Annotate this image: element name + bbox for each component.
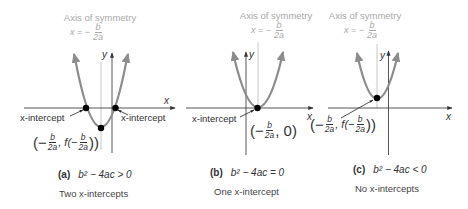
panel-c-graph xyxy=(328,44,452,155)
caption-letter: (a) xyxy=(58,169,70,180)
subcaption-c: No x-intercepts xyxy=(355,184,419,194)
equation-prefix: x = − xyxy=(70,28,90,37)
y-axis-label: y xyxy=(102,50,107,60)
axis-of-symmetry-equation: x = − b 2a xyxy=(344,21,378,40)
quadratic-discriminant-figure: Axis of symmetry x = − b 2a y x x-interc… xyxy=(0,0,468,209)
subcaption-b: One x-intercept xyxy=(214,187,279,197)
axis-of-symmetry-equation: x = − b 2a xyxy=(251,21,285,40)
axis-of-symmetry-title: Axis of symmetry xyxy=(320,11,410,21)
axis-of-symmetry-equation: x = − b 2a xyxy=(70,23,104,42)
caption-letter: (c) xyxy=(353,164,365,175)
equation-prefix: x = − xyxy=(251,26,271,35)
caption-letter: (b) xyxy=(210,167,223,178)
pointer-arrow xyxy=(70,110,83,116)
vertex-coordinate-label: (− b2a , 0) xyxy=(250,121,297,139)
y-axis-label: y xyxy=(380,51,385,61)
y-axis-label: y xyxy=(249,50,254,60)
vertex-coordinate-label: (− b2a , f(− b2a )) xyxy=(310,115,376,133)
discriminant-condition: b² − 4ac < 0 xyxy=(373,164,426,175)
axis-of-symmetry-title: Axis of symmetry xyxy=(231,11,321,21)
equation-prefix: x = − xyxy=(344,26,364,35)
x-axis-label: x xyxy=(446,112,451,122)
x-intercept-point-right xyxy=(112,105,118,111)
subcaption-a: Two x-intercepts xyxy=(59,189,128,199)
x-intercept-point-left xyxy=(83,105,89,111)
discriminant-condition: b² − 4ac > 0 xyxy=(78,169,131,180)
x-intercept-label-left: x-intercept xyxy=(20,113,64,123)
vertex-point xyxy=(98,125,104,131)
caption-a: (a)b² − 4ac > 0 xyxy=(58,170,132,180)
x-intercept-label-right: x-intercept xyxy=(121,113,165,123)
caption-c: (c)b² − 4ac < 0 xyxy=(353,165,427,175)
fraction-denominator: 2a xyxy=(92,33,104,42)
vertex-coordinate-label: (− b2a , f(− b2a )) xyxy=(33,133,99,151)
x-axis-label: x xyxy=(164,96,169,106)
x-intercept-label: x-intercept xyxy=(192,114,236,124)
caption-b: (b)b² − 4ac = 0 xyxy=(210,168,284,178)
vertex-point xyxy=(374,95,380,101)
fraction-denominator: 2a xyxy=(366,31,378,40)
pointer-arrow xyxy=(240,110,254,117)
fraction-denominator: 2a xyxy=(273,31,285,40)
vertex-x-intercept-point xyxy=(254,105,260,111)
discriminant-condition: b² − 4ac = 0 xyxy=(231,167,284,178)
